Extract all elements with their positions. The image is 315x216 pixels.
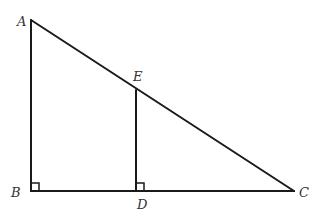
segment-ac [31, 20, 294, 191]
triangle-figure: A B C D E [0, 0, 315, 216]
label-c: C [299, 185, 309, 200]
label-a: A [16, 14, 26, 29]
label-e: E [132, 69, 143, 84]
right-angle-marker-b [31, 183, 39, 191]
geometry-diagram: A B C D E [0, 0, 315, 216]
right-angle-marker-d [136, 183, 144, 191]
label-b: B [10, 185, 21, 200]
label-d: D [136, 197, 148, 212]
